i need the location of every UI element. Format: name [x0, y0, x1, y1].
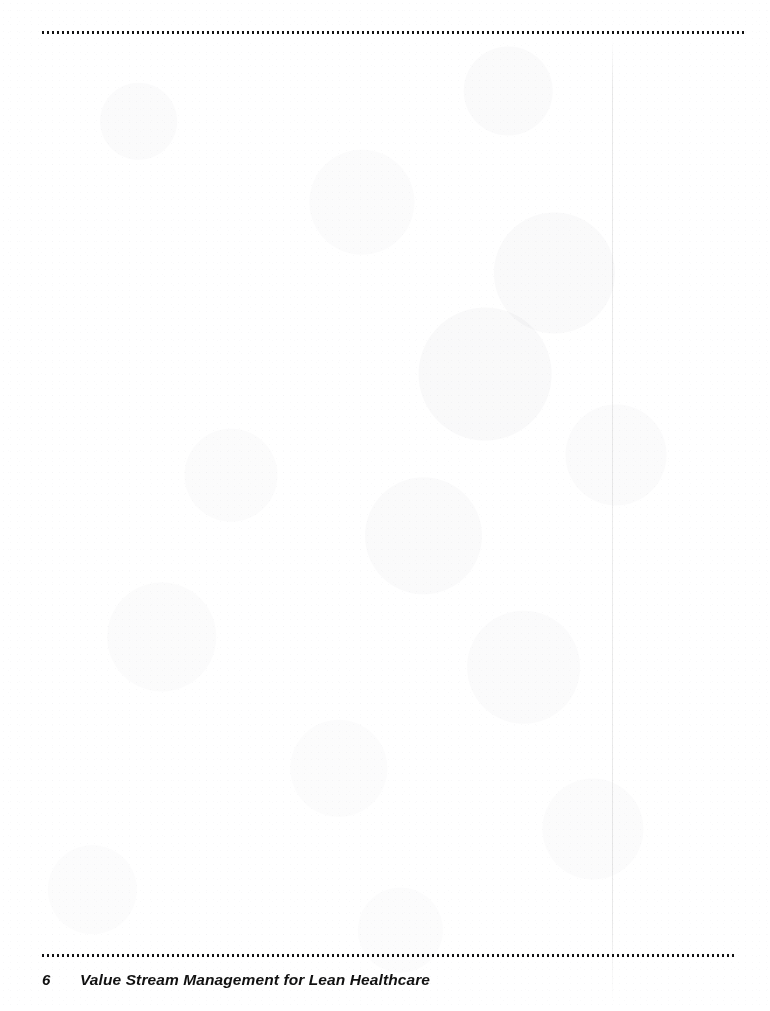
footer-page-number: 6 — [42, 971, 80, 988]
footer-book-title: Value Stream Management for Lean Healthc… — [80, 971, 430, 989]
scanned-page: 6 Value Stream Management for Lean Healt… — [0, 0, 770, 1011]
page-body-content — [42, 44, 746, 944]
dotted-rule-top — [42, 31, 746, 34]
dotted-rule-bottom — [42, 954, 736, 957]
page-footer: 6 Value Stream Management for Lean Healt… — [42, 971, 430, 989]
